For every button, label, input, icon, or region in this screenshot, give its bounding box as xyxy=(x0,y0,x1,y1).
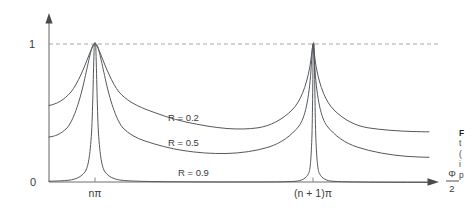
curve-r-02 xyxy=(49,44,429,132)
x-tick-label-n-pi: nπ xyxy=(88,187,101,199)
caption-line-5: p xyxy=(459,170,476,180)
caption-line-3: ( xyxy=(459,149,476,159)
caption-line-2: t xyxy=(459,138,476,148)
figure-container: 1 0 nπ (n + 1)π R = 0.2 R = 0.5 R = 0.9 … xyxy=(0,0,476,222)
x-axis-label-denominator: 2 xyxy=(449,183,454,194)
curve-label-r-05: R = 0.5 xyxy=(168,137,199,148)
curve-label-r-02: R = 0.2 xyxy=(168,112,199,123)
caption-line-4: i xyxy=(459,159,476,169)
x-axis-label-numerator: Φ xyxy=(448,168,456,179)
x-tick-label-n-plus-1-pi: (n + 1)π xyxy=(294,187,332,199)
curve-r-05 xyxy=(49,43,429,157)
curve-r-09 xyxy=(49,43,429,183)
airy-transmission-plot: 1 0 nπ (n + 1)π R = 0.2 R = 0.5 R = 0.9 … xyxy=(0,0,476,222)
y-axis-label-zero: 0 xyxy=(30,176,36,188)
y-axis-arrow-icon xyxy=(45,13,52,24)
figure-caption-clipped: F t ( i p xyxy=(459,128,476,180)
y-axis-label-one: 1 xyxy=(29,38,35,50)
caption-line-1: F xyxy=(459,128,476,138)
curve-label-r-09: R = 0.9 xyxy=(178,167,209,178)
x-axis-label-phi-over-2: Φ 2 xyxy=(446,168,459,194)
